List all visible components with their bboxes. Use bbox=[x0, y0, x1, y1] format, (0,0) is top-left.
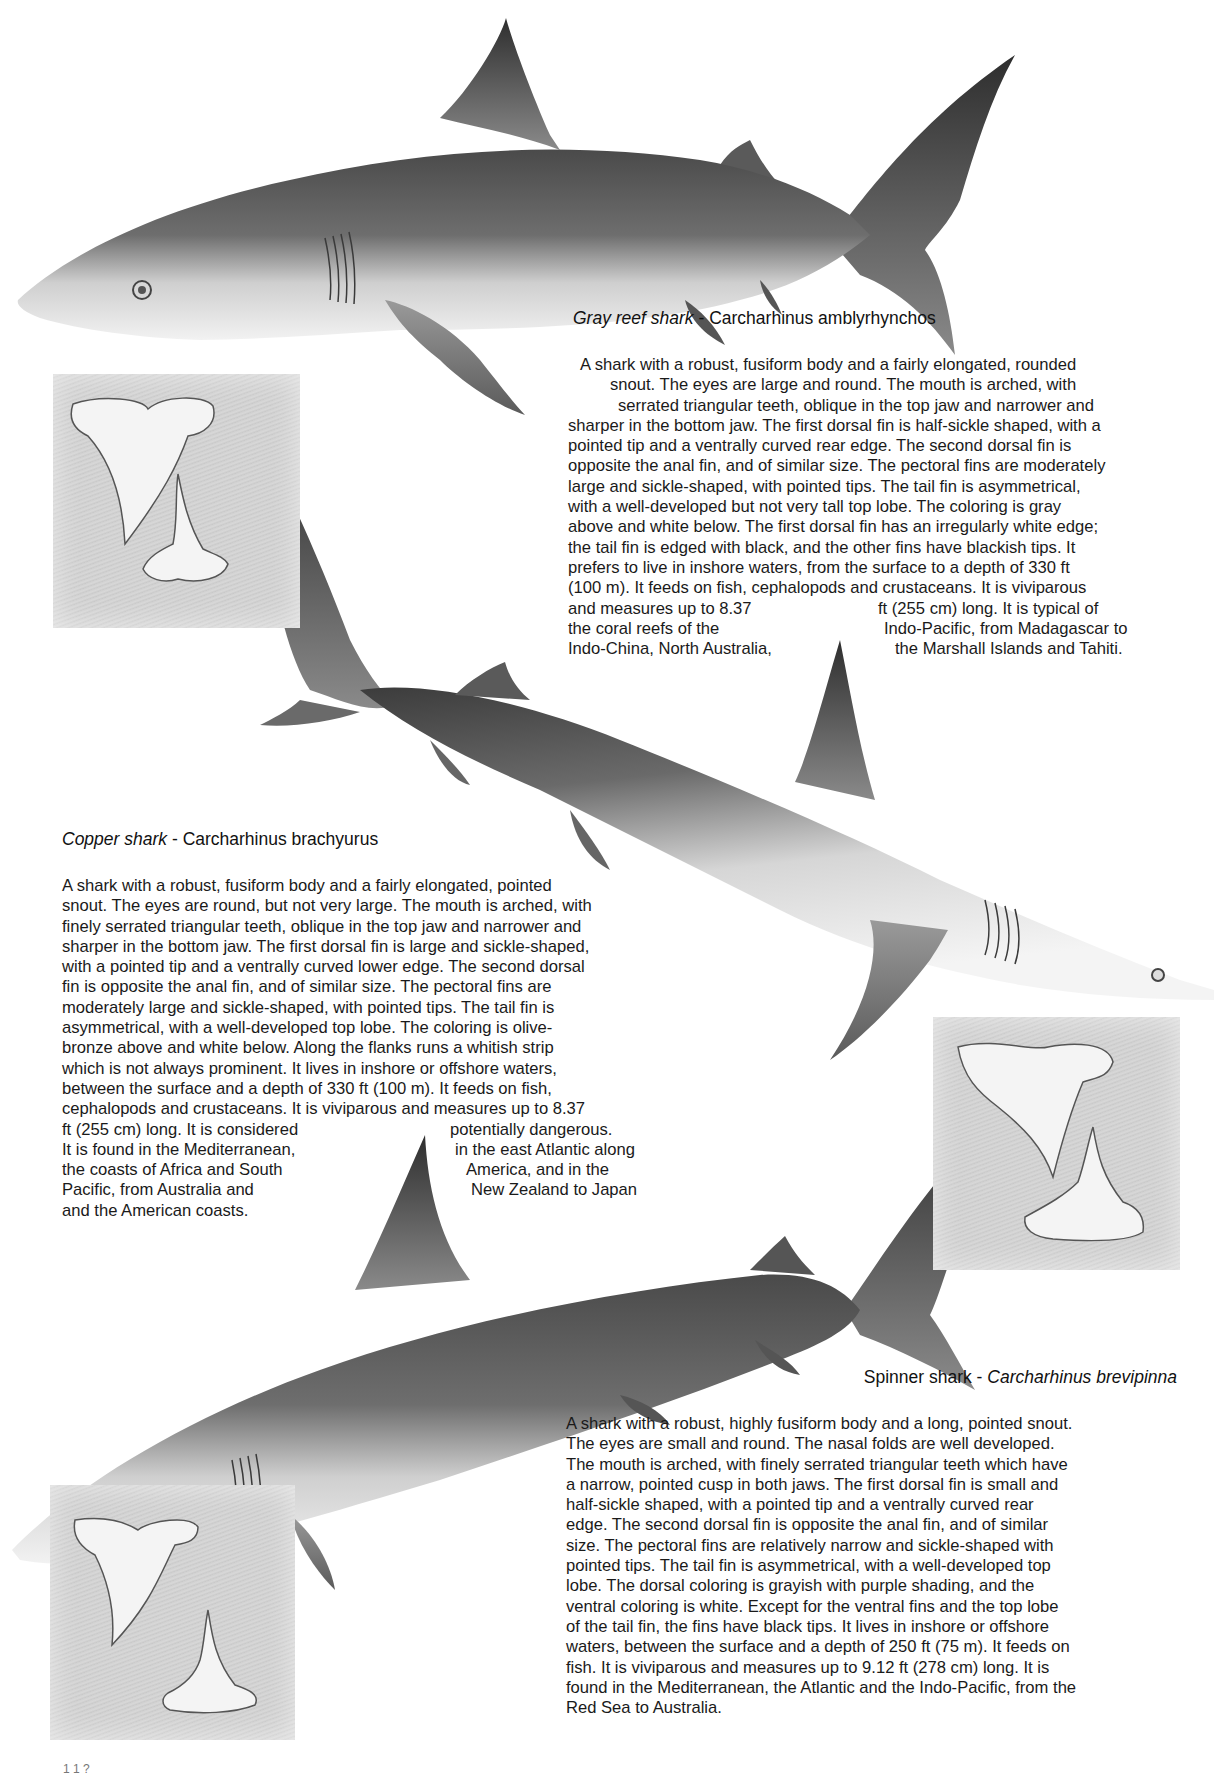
text-line: ventral coloring is white. Except for th… bbox=[566, 1597, 1186, 1617]
text-line: a narrow, pointed cusp in both jaws. The… bbox=[566, 1475, 1186, 1495]
text-right: the Marshall Islands and Tahiti. bbox=[895, 639, 1123, 659]
text-right: New Zealand to Japan bbox=[471, 1180, 637, 1200]
text-left: and measures up to 8.37 bbox=[568, 599, 752, 619]
text-line: lobe. The dorsal coloring is grayish wit… bbox=[566, 1576, 1186, 1596]
text-line: between the surface and a depth of 330 f… bbox=[62, 1079, 672, 1099]
text-line: large and sickle-shaped, with pointed ti… bbox=[568, 477, 1188, 497]
text-line: opposite the anal fin, and of similar si… bbox=[568, 456, 1188, 476]
common-name: Spinner shark bbox=[864, 1367, 972, 1387]
spinner-title: Spinner shark - Carcharhinus brevipinna bbox=[864, 1366, 1177, 1388]
text-line-split: Pacific, from Australia and New Zealand … bbox=[62, 1180, 672, 1200]
text-line: with a pointed tip and a ventrally curve… bbox=[62, 957, 672, 977]
text-line: Red Sea to Australia. bbox=[566, 1698, 1186, 1718]
tooth-icon bbox=[53, 374, 300, 628]
text-line-split: the coral reefs of the Indo-Pacific, fro… bbox=[568, 619, 1188, 639]
text-line: which is not always prominent. It lives … bbox=[62, 1059, 672, 1079]
text-line: A shark with a robust, fusiform body and… bbox=[62, 876, 672, 896]
copper-description: A shark with a robust, fusiform body and… bbox=[62, 876, 672, 1221]
text-line: cephalopods and crustaceans. It is vivip… bbox=[62, 1099, 672, 1119]
text-line: half-sickle shaped, with a pointed tip a… bbox=[566, 1495, 1186, 1515]
scientific-name: Carcharhinus brachyurus bbox=[183, 829, 379, 849]
text-line: (100 m). It feeds on fish, cephalopods a… bbox=[568, 578, 1188, 598]
text-line-split: the coasts of Africa and South America, … bbox=[62, 1160, 672, 1180]
text-line: The mouth is arched, with finely serrate… bbox=[566, 1455, 1186, 1475]
text-line: pointed tips. The tail fin is asymmetric… bbox=[566, 1556, 1186, 1576]
text-line-split: ft (255 cm) long. It is considered poten… bbox=[62, 1120, 672, 1140]
text-line: pointed tip and a ventrally curved rear … bbox=[568, 436, 1188, 456]
text-line: serrated triangular teeth, oblique in th… bbox=[568, 396, 1188, 416]
text-line: finely serrated triangular teeth, obliqu… bbox=[62, 917, 672, 937]
text-right: ft (255 cm) long. It is typical of bbox=[878, 599, 1098, 619]
separator: - bbox=[694, 308, 710, 328]
scientific-name: Carcharhinus amblyrhynchos bbox=[709, 308, 936, 328]
text-line: A shark with a robust, highly fusiform b… bbox=[566, 1414, 1186, 1434]
copper-title: Copper shark - Carcharhinus brachyurus bbox=[62, 828, 378, 850]
text-left: Pacific, from Australia and bbox=[62, 1180, 254, 1200]
common-name: Copper shark bbox=[62, 829, 167, 849]
text-line: sharper in the bottom jaw. The first dor… bbox=[62, 937, 672, 957]
text-line: above and white below. The first dorsal … bbox=[568, 517, 1188, 537]
scientific-name: Carcharhinus brevipinna bbox=[987, 1367, 1177, 1387]
text-right: Indo-Pacific, from Madagascar to bbox=[884, 619, 1127, 639]
text-line: bronze above and white below. Along the … bbox=[62, 1038, 672, 1058]
gray-reef-description: A shark with a robust, fusiform body and… bbox=[568, 355, 1188, 659]
text-line-split: and the American coasts. bbox=[62, 1201, 672, 1221]
text-line: size. The pectoral fins are relatively n… bbox=[566, 1536, 1186, 1556]
text-line-split: and measures up to 8.37 ft (255 cm) long… bbox=[568, 599, 1188, 619]
text-left: the coral reefs of the bbox=[568, 619, 719, 639]
text-right: potentially dangerous. bbox=[450, 1120, 612, 1140]
text-line: edge. The second dorsal fin is opposite … bbox=[566, 1515, 1186, 1535]
text-line-split: It is found in the Mediterranean, in the… bbox=[62, 1140, 672, 1160]
text-line: sharper in the bottom jaw. The first dor… bbox=[568, 416, 1188, 436]
text-line: fish. It is viviparous and measures up t… bbox=[566, 1658, 1186, 1678]
text-line-split: Indo-China, North Australia, the Marshal… bbox=[568, 639, 1188, 659]
text-left: Indo-China, North Australia, bbox=[568, 639, 772, 659]
text-line: asymmetrical, with a well-developed top … bbox=[62, 1018, 672, 1038]
tooth-icon bbox=[933, 1017, 1180, 1270]
spinner-teeth-panel bbox=[50, 1485, 295, 1740]
separator: - bbox=[167, 829, 183, 849]
separator: - bbox=[972, 1367, 988, 1387]
text-right: in the east Atlantic along bbox=[455, 1140, 635, 1160]
page-number: 1 1 ? bbox=[63, 1762, 90, 1774]
common-name: Gray reef shark bbox=[573, 308, 694, 328]
text-line: found in the Mediterranean, the Atlantic… bbox=[566, 1678, 1186, 1698]
text-left: the coasts of Africa and South bbox=[62, 1160, 282, 1180]
text-line: snout. The eyes are large and round. The… bbox=[568, 375, 1188, 395]
text-left: and the American coasts. bbox=[62, 1201, 248, 1221]
spinner-description: A shark with a robust, highly fusiform b… bbox=[566, 1414, 1186, 1718]
text-line: snout. The eyes are round, but not very … bbox=[62, 896, 672, 916]
text-line: moderately large and sickle-shaped, with… bbox=[62, 998, 672, 1018]
text-line: of the tail fin, the fins have black tip… bbox=[566, 1617, 1186, 1637]
text-line: the tail fin is edged with black, and th… bbox=[568, 538, 1188, 558]
text-line: with a well-developed but not very tall … bbox=[568, 497, 1188, 517]
copper-teeth-panel bbox=[933, 1017, 1180, 1270]
text-line: A shark with a robust, fusiform body and… bbox=[568, 355, 1188, 375]
tooth-icon bbox=[50, 1485, 295, 1740]
text-line: The eyes are small and round. The nasal … bbox=[566, 1434, 1186, 1454]
gray-reef-teeth-panel bbox=[53, 374, 300, 628]
gray-reef-title: Gray reef shark - Carcharhinus amblyrhyn… bbox=[573, 307, 936, 329]
text-line: prefers to live in inshore waters, from … bbox=[568, 558, 1188, 578]
text-right: America, and in the bbox=[466, 1160, 609, 1180]
text-line: waters, between the surface and a depth … bbox=[566, 1637, 1186, 1657]
text-left: ft (255 cm) long. It is considered bbox=[62, 1120, 298, 1140]
text-left: It is found in the Mediterranean, bbox=[62, 1140, 295, 1160]
text-line: fin is opposite the anal fin, and of sim… bbox=[62, 977, 672, 997]
